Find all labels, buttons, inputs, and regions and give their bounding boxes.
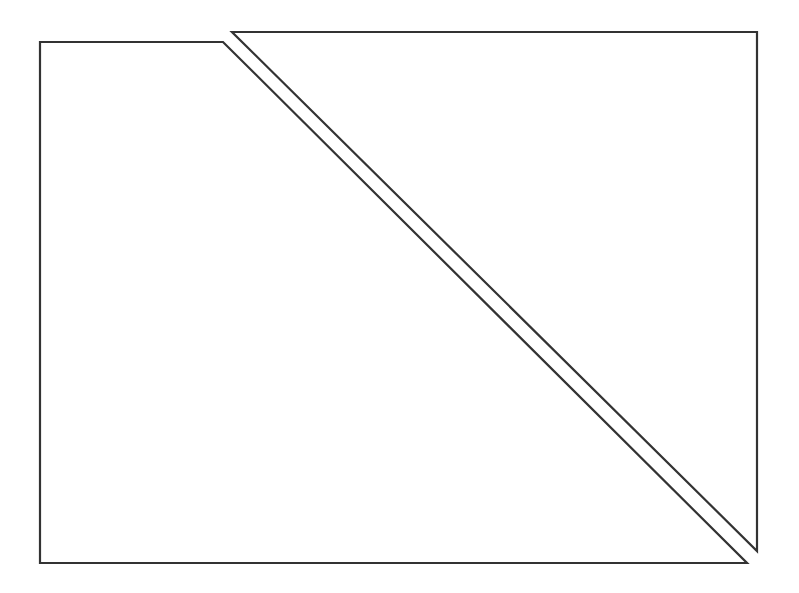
- diagram-canvas: [0, 0, 799, 593]
